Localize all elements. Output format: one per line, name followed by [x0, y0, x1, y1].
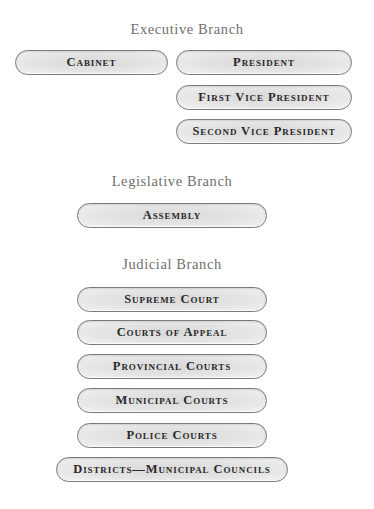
provincial-courts-box: Provincial Courts — [77, 354, 267, 379]
cabinet-box: Cabinet — [15, 50, 168, 75]
second-vice-president-label: Second Vice President — [192, 125, 335, 138]
districts-municipal-councils-label: Districts—Municipal Councils — [73, 463, 271, 476]
president-label: President — [233, 56, 295, 69]
president-box: President — [176, 50, 352, 75]
police-courts-label: Police Courts — [126, 429, 217, 442]
executive-branch-heading: Executive Branch — [0, 21, 374, 37]
first-vice-president-label: First Vice President — [198, 91, 329, 104]
provincial-courts-label: Provincial Courts — [113, 360, 231, 373]
assembly-box: Assembly — [77, 203, 267, 228]
judicial-branch-heading: Judicial Branch — [0, 256, 359, 272]
second-vice-president-box: Second Vice President — [176, 119, 352, 144]
municipal-courts-box: Municipal Courts — [77, 388, 267, 413]
first-vice-president-box: First Vice President — [176, 85, 352, 110]
legislative-branch-heading: Legislative Branch — [0, 173, 359, 189]
police-courts-box: Police Courts — [77, 423, 267, 448]
assembly-label: Assembly — [143, 209, 201, 222]
supreme-court-label: Supreme Court — [124, 293, 220, 306]
supreme-court-box: Supreme Court — [77, 287, 267, 312]
municipal-courts-label: Municipal Courts — [116, 394, 229, 407]
courts-of-appeal-label: Courts of Appeal — [117, 326, 228, 339]
cabinet-label: Cabinet — [67, 56, 117, 69]
districts-municipal-councils-box: Districts—Municipal Councils — [56, 457, 288, 482]
courts-of-appeal-box: Courts of Appeal — [77, 320, 267, 345]
